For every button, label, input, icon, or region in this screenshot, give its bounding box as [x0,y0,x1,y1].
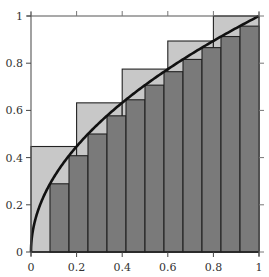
y-tick-label: 0.6 [6,104,24,117]
lower-bar [183,59,202,252]
y-tick-label: 0.2 [6,199,24,212]
lower-bar [69,156,88,252]
lower-bar [145,85,164,252]
y-tick-label: 0.8 [6,57,24,70]
lower-bar [107,116,126,252]
lower-bar [164,72,183,252]
x-tick-label: 0.2 [68,261,86,274]
x-tick-label: 0.4 [113,261,131,274]
lower-bar [221,37,240,252]
lower-bar [202,48,221,252]
x-tick-label: 0.6 [159,261,177,274]
lower-bar [240,26,259,252]
x-tick-label: 0.8 [205,261,223,274]
y-tick-label: 0.4 [6,152,24,165]
lower-bar [88,134,107,252]
y-tick-label: 0 [16,246,23,259]
lower-bar [50,184,69,252]
y-tick-label: 1 [16,10,23,23]
lower-bar [126,100,145,252]
riemann-sum-chart: 00.20.40.60.81 00.20.40.60.81 [0,0,269,277]
x-tick-label: 0 [28,261,35,274]
x-tick-label: 1 [256,261,263,274]
